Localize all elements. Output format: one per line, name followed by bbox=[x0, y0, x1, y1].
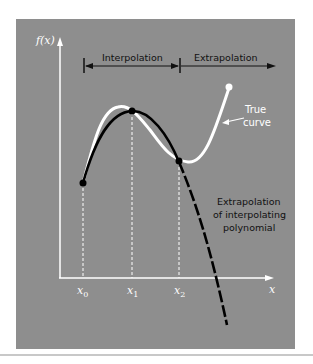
x0-tick-label: x0 bbox=[77, 284, 88, 299]
extrapolation-label: Extrapolation bbox=[194, 52, 258, 63]
extrap-label-line1: Extrapolation bbox=[217, 196, 281, 207]
true-curve-label-line1: True bbox=[244, 104, 266, 115]
true-curve-label-line2: curve bbox=[243, 117, 271, 128]
data-point-x2 bbox=[176, 158, 183, 165]
data-point-x0 bbox=[80, 180, 87, 187]
interpolation-diagram: f(x) x x0 x1 x2 Interpolation Extrapolat… bbox=[0, 0, 313, 364]
extrap-label-line3: polynomial bbox=[223, 222, 275, 233]
true-curve-pointer-head bbox=[222, 119, 229, 125]
x-axis-arrowhead bbox=[265, 275, 274, 281]
x2-tick-label: x2 bbox=[174, 284, 185, 299]
y-axis-label: f(x) bbox=[35, 34, 55, 47]
extrapolated-polynomial bbox=[179, 162, 227, 325]
y-axis-arrowhead bbox=[57, 37, 63, 46]
x1-tick-label: x1 bbox=[127, 284, 138, 299]
extrap-label-line2: of interpolating bbox=[213, 209, 286, 220]
true-curve-endpoint bbox=[226, 84, 233, 91]
x-axis-label: x bbox=[269, 283, 276, 296]
extrap-arrowhead bbox=[267, 63, 276, 69]
data-point-x1 bbox=[129, 108, 136, 115]
interp-arrowhead-left bbox=[85, 63, 93, 69]
true-curve bbox=[83, 88, 229, 183]
interp-arrowhead-right bbox=[171, 63, 179, 69]
interpolation-label: Interpolation bbox=[102, 52, 163, 63]
